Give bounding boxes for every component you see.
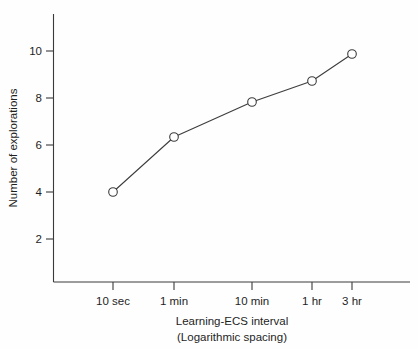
y-tick-label-10: 10 <box>29 45 42 57</box>
y-tick-label-4: 4 <box>36 186 43 198</box>
x-tick-label-1-hr: 1 hr <box>302 295 322 307</box>
y-tick-label-6: 6 <box>36 139 42 151</box>
x-axis-title-line2: (Logarithmic spacing) <box>177 331 287 343</box>
data-point-marker <box>109 188 118 197</box>
data-point-marker <box>170 133 179 142</box>
y-tick-label-8: 8 <box>36 92 42 104</box>
x-tick-label-10-min: 10 min <box>235 295 270 307</box>
data-point-marker <box>308 77 317 86</box>
y-tick-label-2: 2 <box>36 233 42 245</box>
x-tick-label-3-hr: 3 hr <box>342 295 362 307</box>
y-axis-title: Number of explorations <box>7 88 19 207</box>
line-chart-plot: 10 8 6 4 2 10 sec 1 min 10 min 1 hr 3 hr… <box>0 0 418 349</box>
chart-container: 10 8 6 4 2 10 sec 1 min 10 min 1 hr 3 hr… <box>0 0 418 349</box>
x-tick-label-10-sec: 10 sec <box>96 295 130 307</box>
x-axis-title-line1: Learning-ECS interval <box>176 315 289 327</box>
data-point-marker <box>348 50 357 59</box>
data-point-marker <box>248 98 257 107</box>
data-series-line <box>113 54 352 192</box>
x-tick-label-1-min: 1 min <box>160 295 188 307</box>
